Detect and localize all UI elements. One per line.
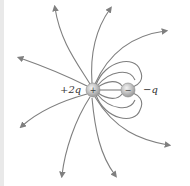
negative-sign-icon: − — [125, 86, 132, 95]
positive-sign-icon: + — [90, 86, 97, 95]
field-diagram: + − +2q −q — [0, 0, 190, 186]
field-lines-svg: + − — [0, 0, 190, 186]
charge-label-positive: +2q — [60, 84, 81, 95]
charge-label-negative: −q — [143, 84, 158, 95]
